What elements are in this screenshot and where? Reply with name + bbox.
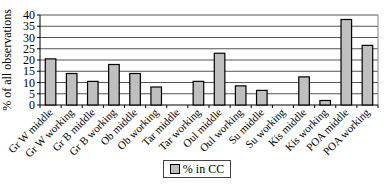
bar — [45, 59, 56, 105]
bar — [214, 53, 225, 105]
bar — [151, 87, 162, 105]
bar — [235, 86, 246, 105]
bar — [341, 20, 352, 106]
y-axis-label: % of all observations — [0, 9, 14, 111]
legend-swatch-icon — [170, 164, 180, 174]
bar — [257, 90, 268, 105]
bars — [45, 20, 372, 106]
legend-label: % in CC — [183, 162, 224, 177]
bar — [109, 65, 120, 106]
bar — [66, 74, 77, 106]
bar — [299, 77, 310, 105]
x-tick-labels: Gr W middleGr W workingGr B middleGr B w… — [6, 106, 372, 160]
bar — [362, 45, 373, 105]
bar — [193, 81, 204, 105]
bar — [320, 101, 331, 106]
legend: % in CC — [163, 160, 231, 178]
bar — [130, 74, 141, 106]
bar — [88, 81, 99, 105]
y-axis: 0510152025303540% of all observations — [0, 8, 40, 112]
y-tick-label: 40 — [23, 8, 35, 22]
